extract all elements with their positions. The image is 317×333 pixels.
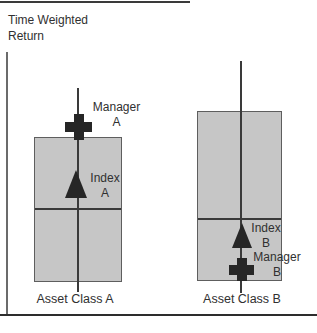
y-axis-line [6, 52, 8, 314]
manager-b-label-line1: Manager [252, 250, 302, 265]
manager-a-label: Manager A [92, 100, 141, 129]
manager-b-label-line2: B [252, 265, 302, 280]
manager-a-plus-icon [65, 114, 92, 140]
chart-title-line1: Time Weighted [8, 13, 88, 29]
plus-vertical-bar [237, 258, 247, 281]
index-a-label-line1: Index [88, 171, 122, 186]
figure-time-weighted-return: Time Weighted Return Manager A Index A A… [0, 0, 317, 333]
chart-title: Time Weighted Return [8, 13, 88, 44]
manager-b-plus-icon [229, 258, 254, 281]
index-a-label: Index A [88, 171, 122, 200]
index-a-label-line2: A [88, 186, 122, 201]
asset-class-b-label: Asset Class B [194, 292, 290, 306]
top-rule-line [0, 1, 190, 3]
x-axis-line [0, 314, 317, 316]
index-b-label-line2: B [249, 236, 283, 251]
manager-a-label-line2: A [92, 115, 141, 130]
manager-b-label: Manager B [252, 250, 302, 279]
index-b-label-line1: Index [249, 221, 283, 236]
chart-title-line2: Return [8, 29, 88, 45]
asset-class-a-label: Asset Class A [27, 292, 123, 306]
plus-vertical-bar [74, 114, 84, 140]
index-a-triangle-icon [65, 170, 87, 198]
index-b-label: Index B [249, 221, 283, 250]
manager-a-label-line1: Manager [92, 100, 141, 115]
